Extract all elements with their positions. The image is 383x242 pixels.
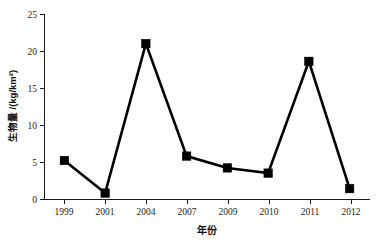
data-point-marker (345, 184, 353, 192)
biomass-line-chart: 25 20 15 10 5 0 1999 2001 2004 2007 2009… (0, 0, 383, 242)
x-tick-label: 2004 (137, 207, 156, 217)
x-tick-label: 2010 (260, 207, 279, 217)
chart-background (0, 0, 383, 242)
y-tick-label: 0 (32, 195, 37, 205)
data-point-marker (182, 152, 190, 160)
x-tick-label: 2001 (96, 207, 115, 217)
data-point-marker (223, 164, 231, 172)
x-tick-label: 2007 (178, 207, 197, 217)
data-point-marker (142, 39, 150, 47)
y-tick-label: 20 (28, 47, 38, 57)
x-tick-label: 1999 (55, 207, 74, 217)
data-point-marker (305, 57, 313, 65)
x-tick-label: 2009 (219, 207, 238, 217)
data-point-marker (60, 156, 68, 164)
y-tick-label: 5 (32, 158, 37, 168)
y-tick-label: 10 (28, 121, 38, 131)
x-tick-label: 2012 (342, 207, 361, 217)
y-tick-label: 15 (28, 84, 38, 94)
y-axis-title: 生物量 /(kg/km²) (7, 70, 18, 142)
data-point-marker (101, 189, 109, 197)
y-tick-label: 25 (28, 10, 38, 20)
x-tick-label: 2011 (301, 207, 320, 217)
x-axis-title: 年份 (197, 224, 218, 236)
chart-canvas: 25 20 15 10 5 0 1999 2001 2004 2007 2009… (0, 0, 383, 242)
data-point-marker (264, 169, 272, 177)
